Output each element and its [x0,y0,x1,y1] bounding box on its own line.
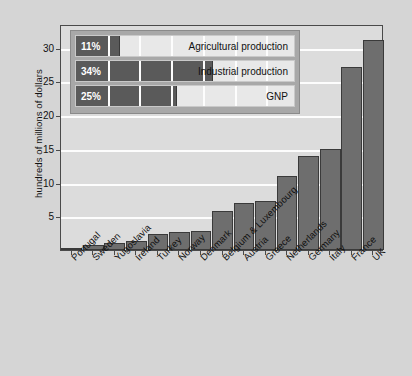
legend-gridline [139,36,141,56]
y-tick-mark [56,82,60,83]
legend-gridline [108,86,110,106]
legend-row: 11%Agricultural production [75,35,295,57]
y-tick-mark [56,217,60,218]
y-tick-label: 5 [20,212,54,222]
y-tick-label: 10 [20,179,54,189]
legend-gridline [171,86,173,106]
y-tick-mark [56,184,60,185]
y-tick-mark [56,49,60,50]
y-tick-label: 20 [20,111,54,121]
legend-gridline [171,61,173,81]
legend-gridline [171,36,173,56]
legend-gridline [235,86,237,106]
chart-figure: hundreds of millions of dollars 51015202… [0,0,412,376]
y-tick-mark [56,150,60,151]
legend-series-label: GNP [266,91,288,102]
legend-series-label: Agricultural production [189,41,289,52]
y-tick-mark [56,116,60,117]
legend-percent-label: 11% [81,41,100,52]
legend-gridline [139,86,141,106]
bar [341,67,362,250]
legend-gridline [108,36,110,56]
legend-gridline [139,61,141,81]
legend-percent-label: 34% [81,66,101,77]
y-tick-label: 30 [20,44,54,54]
legend-percent-label: 25% [81,91,101,102]
legend-row: 34%Industrial production [75,60,295,82]
legend-gridline [203,86,205,106]
y-tick-label: 25 [20,77,54,87]
y-tick-label: 15 [20,145,54,155]
legend-inset: 11%Agricultural production34%Industrial … [70,30,300,114]
legend-series-label: Industrial production [198,66,288,77]
bar [363,40,384,250]
legend-row: 25%GNP [75,85,295,107]
y-axis-title: hundreds of millions of dollars [33,34,44,234]
legend-gridline [108,61,110,81]
